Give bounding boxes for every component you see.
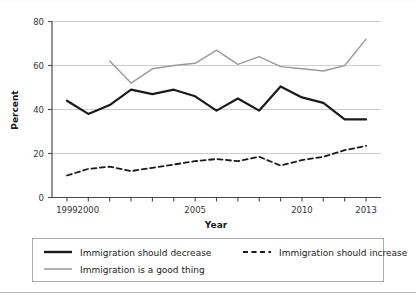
x-tick-label-2010: 2010 (291, 205, 313, 215)
x-tick-labels: 19992000200520102013 (56, 205, 377, 215)
y-tick-label-80: 80 (33, 17, 44, 27)
y-tick-label-0: 0 (39, 193, 44, 203)
x-tick-label-2000: 2000 (77, 205, 99, 215)
y-tick-label-60: 60 (33, 61, 44, 71)
series-line-immigration-should-increase (67, 146, 366, 176)
y-tick-label-40: 40 (33, 105, 44, 115)
x-tick-label-2013: 2013 (355, 205, 377, 215)
x-tick-label-1999: 1999 (56, 205, 78, 215)
line-chart: 80 60 40 20 0 19992000200520102013 Perce… (0, 0, 416, 299)
chart-figure: 80 60 40 20 0 19992000200520102013 Perce… (0, 0, 416, 299)
y-axis-title: Percent (10, 90, 20, 130)
x-ticks (67, 198, 366, 202)
x-tick-label-2005: 2005 (184, 205, 206, 215)
series-line-immigration-is-a-good-thing (110, 39, 366, 83)
x-axis-title: Year (204, 220, 228, 230)
data-series-layer (67, 39, 366, 175)
gridlines (52, 22, 381, 154)
series-line-immigration-should-decrease (67, 86, 366, 119)
y-tick-label-20: 20 (33, 149, 44, 159)
bottom-divider (0, 292, 416, 293)
